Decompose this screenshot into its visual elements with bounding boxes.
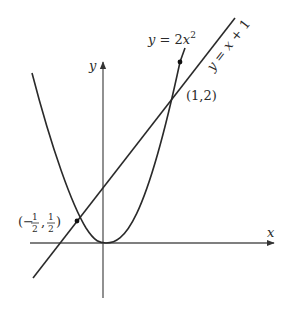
svg-text:,: , (41, 214, 45, 229)
point-label-1-2: (1,2) (186, 88, 217, 103)
parabola-label: y = 2x2 (147, 30, 196, 47)
svg-text:1: 1 (32, 212, 38, 222)
svg-text:2: 2 (48, 224, 54, 234)
line-curve (33, 18, 235, 278)
y-axis-label: y (88, 58, 97, 73)
x-axis-label: x (267, 225, 275, 240)
svg-text:2: 2 (32, 224, 38, 234)
line-label: y = x + 1 (203, 16, 253, 74)
svg-text:1: 1 (48, 212, 54, 222)
svg-text:): ) (56, 214, 61, 229)
point-label-neg-half: (− 1 2 , 1 2 ) (18, 212, 61, 234)
graph-diagram: x y y = 2x2 y = x + 1 (1,2) (− 1 2 , 1 2… (0, 0, 290, 311)
intersection-point-neg-half (75, 219, 80, 224)
intersection-point-1-2 (178, 60, 183, 65)
parabola-curve (32, 48, 185, 243)
